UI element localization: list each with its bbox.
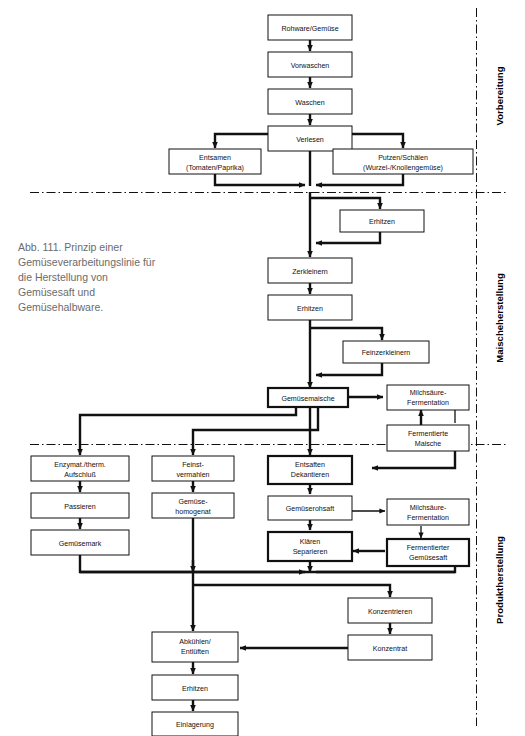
node-erhitzen-2[interactable]: Erhitzen bbox=[268, 295, 352, 320]
node-milchsaeure-2-label-2: Fermentation bbox=[407, 514, 449, 522]
node-zerkleinern[interactable]: Zerkleinern bbox=[268, 258, 352, 283]
node-erhitzen-2-label: Erhitzen bbox=[297, 305, 323, 313]
node-vorwaschen[interactable]: Vorwaschen bbox=[268, 52, 352, 77]
node-abkuehlen-entlueften[interactable]: Abkühlen/ Entlüften bbox=[152, 632, 238, 662]
node-waschen-label: Waschen bbox=[295, 99, 324, 107]
flowchart-svg: Rohware/Gemüse Vorwaschen Waschen Verles… bbox=[0, 0, 525, 736]
node-entsaften-label-2: Dekantieren bbox=[291, 471, 329, 479]
node-fermentierter-gemuesesaft[interactable]: Fermentierter Gemüsesaft bbox=[387, 539, 469, 566]
node-gemueserohsaft[interactable]: Gemüserohsaft bbox=[268, 496, 352, 520]
node-konzentrieren[interactable]: Konzentrieren bbox=[348, 598, 432, 623]
node-waschen[interactable]: Waschen bbox=[268, 89, 352, 114]
node-fermentierte-maische-label-2: Maische bbox=[415, 440, 441, 448]
node-entsamen-label-2: (Tomaten/Paprika) bbox=[186, 164, 244, 172]
node-aufschluss-label-1: Enzymat./therm. bbox=[54, 461, 106, 469]
node-entsamen-label-1: Entsamen bbox=[199, 154, 231, 162]
node-feinstvermahlen-label-2: vermahlen bbox=[176, 471, 209, 479]
node-milchsaeure-1-label-2: Fermentation bbox=[407, 399, 449, 407]
node-milchsaeure-fermentation-1[interactable]: Milchsäure- Fermentation bbox=[387, 385, 469, 410]
node-entsaften-dekantieren[interactable]: Entsaften Dekantieren bbox=[268, 456, 352, 484]
node-aufschluss-label-2: Aufschluß bbox=[64, 471, 96, 479]
node-gemuesehomogenat-label-2: homogenat bbox=[175, 508, 211, 516]
node-gemuesemark-label: Gemüsemark bbox=[59, 540, 102, 548]
section-label-maischeherstellung: Maischeherstellung bbox=[494, 273, 505, 363]
node-einlagerung-label: Einlagerung bbox=[176, 721, 214, 729]
node-feinzerkleinern[interactable]: Feinzerkleinern bbox=[343, 341, 429, 363]
node-gemuesemaische[interactable]: Gemüsemaische bbox=[268, 388, 348, 407]
node-gemuesemaische-label: Gemüsemaische bbox=[281, 395, 334, 403]
node-milchsaeure-1-label-1: Milchsäure- bbox=[410, 389, 447, 397]
node-fermentierter-saft-label-2: Gemüsesaft bbox=[409, 554, 447, 562]
node-gemuesehomogenat[interactable]: Gemüse- homogenat bbox=[152, 493, 234, 518]
node-putzen-schaelen[interactable]: Putzen/Schälen (Wurzel-/Knollengemüse) bbox=[333, 149, 473, 174]
node-passieren-label: Passieren bbox=[64, 503, 96, 511]
node-vorwaschen-label: Vorwaschen bbox=[291, 62, 330, 70]
node-milchsaeure-fermentation-2[interactable]: Milchsäure- Fermentation bbox=[387, 499, 469, 525]
figure-canvas: Abb. 111. Prinzip einer Gemüseverarbeitu… bbox=[0, 0, 525, 736]
node-feinstvermahlen-label-1: Feinst- bbox=[182, 461, 204, 469]
node-fermentierte-maische-label-1: Fermentierte bbox=[408, 430, 448, 438]
node-erhitzen-3[interactable]: Erhitzen bbox=[152, 675, 238, 700]
section-label-vorbereitung: Vorbereitung bbox=[494, 66, 505, 125]
node-putzen-label-2: (Wurzel-/Knollengemüse) bbox=[363, 164, 443, 172]
node-erhitzen-1-label: Erhitzen bbox=[369, 218, 395, 226]
node-erhitzen-3-label: Erhitzen bbox=[182, 685, 208, 693]
node-gemuesemark[interactable]: Gemüsemark bbox=[31, 530, 129, 555]
node-fermentierter-saft-label-1: Fermentierter bbox=[407, 544, 450, 552]
section-label-produktherstellung: Produktherstellung bbox=[494, 536, 505, 624]
node-konzentrat-label: Konzentrat bbox=[373, 645, 407, 653]
node-putzen-label-1: Putzen/Schälen bbox=[378, 154, 428, 162]
node-milchsaeure-2-label-1: Milchsäure- bbox=[410, 504, 447, 512]
node-entsamen[interactable]: Entsamen (Tomaten/Paprika) bbox=[169, 149, 261, 174]
node-entsaften-label-1: Entsaften bbox=[295, 461, 325, 469]
node-fermentierte-maische[interactable]: Fermentierte Maische bbox=[387, 425, 469, 451]
node-einlagerung[interactable]: Einlagerung bbox=[152, 712, 238, 736]
node-konzentrieren-label: Konzentrieren bbox=[368, 608, 412, 616]
node-feinstvermahlen[interactable]: Feinst- vermahlen bbox=[152, 456, 234, 481]
node-passieren[interactable]: Passieren bbox=[31, 493, 129, 518]
node-rohware[interactable]: Rohware/Gemüse bbox=[268, 15, 352, 40]
node-feinzerkleinern-label: Feinzerkleinern bbox=[362, 349, 411, 357]
node-gemueserohsaft-label: Gemüserohsaft bbox=[286, 505, 335, 513]
node-abkuehlen-label-1: Abkühlen/ bbox=[179, 638, 211, 646]
node-verlesen[interactable]: Verlesen bbox=[268, 126, 352, 151]
node-erhitzen-1[interactable]: Erhitzen bbox=[340, 210, 424, 232]
node-rohware-label: Rohware/Gemüse bbox=[281, 25, 338, 33]
node-klaeren-label-1: Klären bbox=[300, 538, 321, 546]
node-zerkleinern-label: Zerkleinern bbox=[292, 268, 328, 276]
node-abkuehlen-label-2: Entlüften bbox=[181, 648, 209, 656]
node-klaeren-label-2: Separieren bbox=[293, 548, 328, 556]
node-enzymatischer-aufschluss[interactable]: Enzymat./therm. Aufschluß bbox=[31, 456, 129, 481]
node-konzentrat[interactable]: Konzentrat bbox=[348, 635, 432, 660]
node-gemuesehomogenat-label-1: Gemüse- bbox=[178, 498, 208, 506]
section-separators bbox=[30, 8, 506, 726]
node-verlesen-label: Verlesen bbox=[296, 136, 324, 144]
node-klaeren-separieren[interactable]: Klären Separieren bbox=[268, 532, 352, 561]
